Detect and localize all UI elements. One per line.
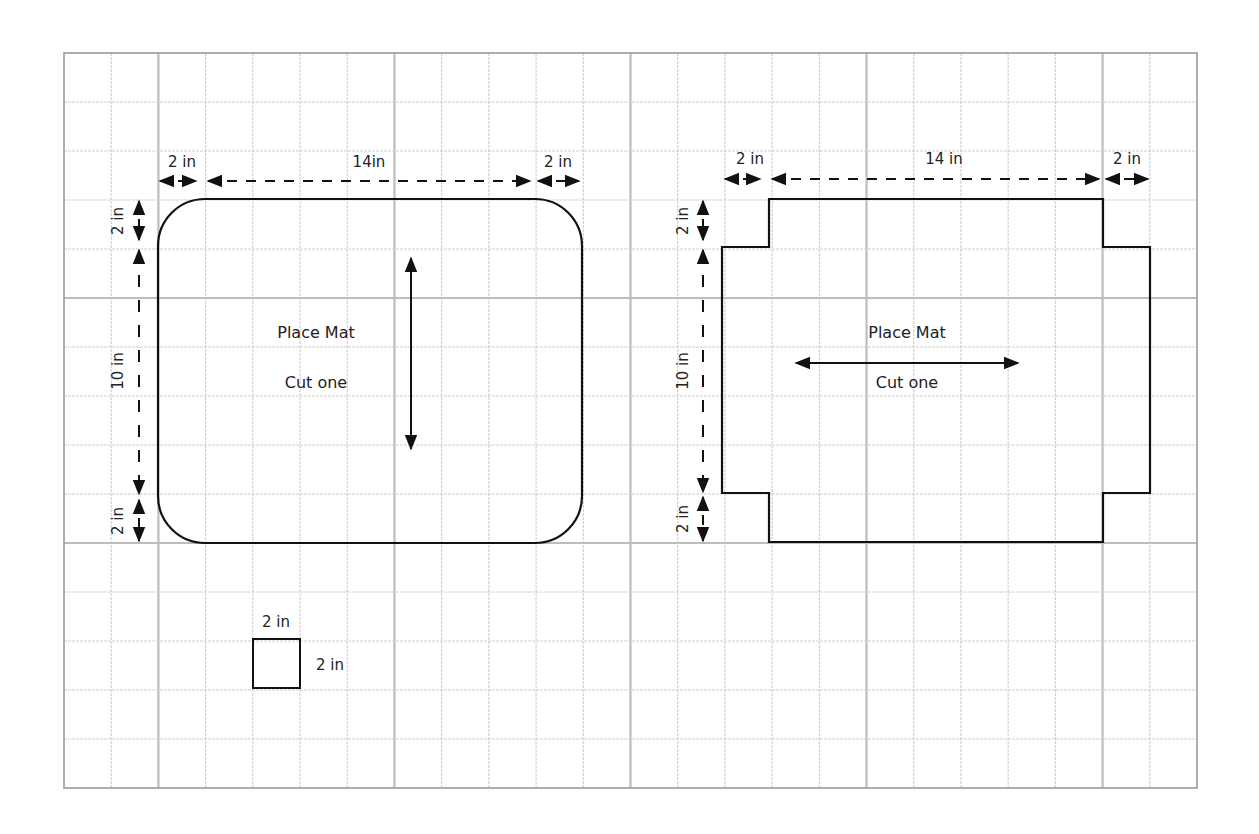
dim-label-side-middle: 10 in — [109, 352, 127, 390]
left-pattern: 2 in 14in 2 in 2 in 10 in 2 in Place Mat… — [109, 153, 582, 543]
corner-template-square — [253, 639, 300, 688]
corner-template-height-label: 2 in — [316, 656, 344, 674]
corner-template: 2 in 2 in — [253, 613, 344, 688]
dim-label-top-right-r: 2 in — [1113, 150, 1141, 168]
dim-label-side-bottom-r: 2 in — [674, 505, 692, 533]
dim-label-side-top-r: 2 in — [674, 207, 692, 235]
dim-label-side-bottom: 2 in — [109, 507, 127, 535]
pattern-sheet: 2 in 14in 2 in 2 in 10 in 2 in Place Mat… — [0, 0, 1259, 834]
right-mat-outline — [722, 199, 1150, 542]
dim-label-top-left-r: 2 in — [736, 150, 764, 168]
left-pattern-title: Place Mat — [277, 323, 355, 342]
corner-template-width-label: 2 in — [262, 613, 290, 631]
left-mat-outline — [158, 199, 582, 543]
dim-label-top-middle-r: 14 in — [925, 150, 963, 168]
right-pattern-title: Place Mat — [868, 323, 946, 342]
dim-label-top-left: 2 in — [168, 153, 196, 171]
dim-label-side-middle-r: 10 in — [674, 352, 692, 390]
dim-label-side-top: 2 in — [109, 207, 127, 235]
dim-label-top-middle: 14in — [353, 153, 386, 171]
right-pattern-instruction: Cut one — [876, 373, 938, 392]
grid-background — [64, 53, 1197, 788]
left-pattern-instruction: Cut one — [285, 373, 347, 392]
dim-label-top-right: 2 in — [544, 153, 572, 171]
right-pattern: 2 in 14 in 2 in 2 in 10 in 2 in Place Ma… — [674, 150, 1150, 542]
